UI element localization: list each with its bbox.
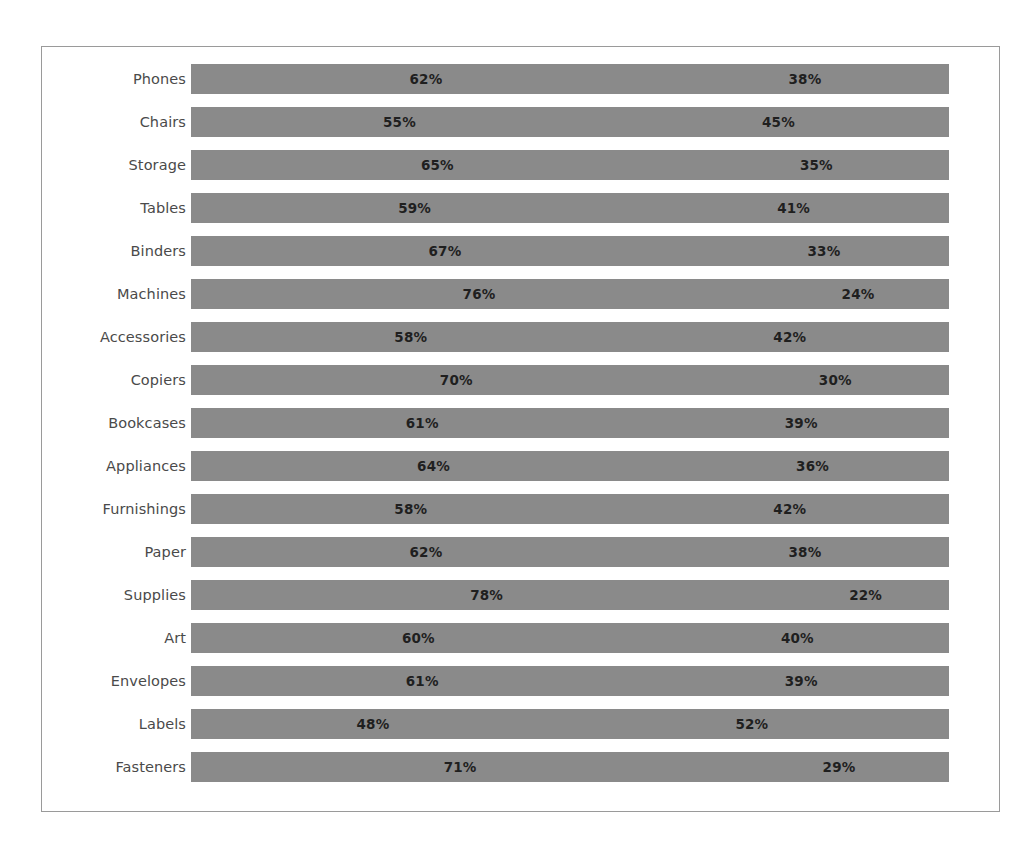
- bar-row: Art60%40%: [42, 617, 999, 660]
- category-label: Binders: [42, 230, 186, 273]
- stacked-bar: 61%39%: [191, 408, 949, 438]
- category-label: Supplies: [42, 574, 186, 617]
- bar-row: Binders67%33%: [42, 230, 999, 273]
- category-label: Phones: [42, 58, 186, 101]
- bar-segment-value: 58%: [394, 329, 427, 345]
- bar-segment[interactable]: 30%: [722, 365, 949, 395]
- bar-segment[interactable]: 65%: [191, 150, 684, 180]
- bar-segment[interactable]: 60%: [191, 623, 646, 653]
- category-label: Furnishings: [42, 488, 186, 531]
- bar-segment[interactable]: 64%: [191, 451, 676, 481]
- bar-segment-value: 59%: [398, 200, 431, 216]
- bar-segment-value: 24%: [842, 286, 875, 302]
- category-label: Machines: [42, 273, 186, 316]
- bar-row: Accessories58%42%: [42, 316, 999, 359]
- bar-segment[interactable]: 76%: [191, 279, 767, 309]
- bar-segment-value: 38%: [789, 544, 822, 560]
- bar-segment[interactable]: 67%: [191, 236, 699, 266]
- bar-segment[interactable]: 55%: [191, 107, 608, 137]
- stacked-bar: 55%45%: [191, 107, 949, 137]
- bar-segment[interactable]: 59%: [191, 193, 638, 223]
- bar-segment-value: 38%: [789, 71, 822, 87]
- bar-segment[interactable]: 22%: [782, 580, 949, 610]
- bar-segment[interactable]: 40%: [646, 623, 949, 653]
- bar-segment-value: 29%: [823, 759, 856, 775]
- bar-segment[interactable]: 58%: [191, 494, 631, 524]
- bar-segment[interactable]: 45%: [608, 107, 949, 137]
- bar-segment[interactable]: 61%: [191, 666, 653, 696]
- bar-segment[interactable]: 78%: [191, 580, 782, 610]
- bar-segment[interactable]: 70%: [191, 365, 722, 395]
- stacked-bar: 67%33%: [191, 236, 949, 266]
- bar-segment[interactable]: 39%: [653, 666, 949, 696]
- bar-row: Paper62%38%: [42, 531, 999, 574]
- bar-segment[interactable]: 62%: [191, 537, 661, 567]
- bar-segment-value: 58%: [394, 501, 427, 517]
- stacked-bar: 65%35%: [191, 150, 949, 180]
- bar-segment[interactable]: 48%: [191, 709, 555, 739]
- stacked-bar: 76%24%: [191, 279, 949, 309]
- bar-segment-value: 78%: [470, 587, 503, 603]
- bar-segment-value: 71%: [444, 759, 477, 775]
- bar-segment[interactable]: 61%: [191, 408, 653, 438]
- bar-segment-value: 62%: [410, 544, 443, 560]
- bar-segment-value: 62%: [410, 71, 443, 87]
- bar-segment[interactable]: 24%: [767, 279, 949, 309]
- stacked-bar: 64%36%: [191, 451, 949, 481]
- bar-segment-value: 67%: [428, 243, 461, 259]
- bar-segment-value: 64%: [417, 458, 450, 474]
- bar-row: Storage65%35%: [42, 144, 999, 187]
- stacked-bar: 58%42%: [191, 494, 949, 524]
- bar-segment[interactable]: 33%: [699, 236, 949, 266]
- bar-segment-value: 42%: [773, 501, 806, 517]
- category-label: Envelopes: [42, 660, 186, 703]
- bar-segment-value: 30%: [819, 372, 852, 388]
- stacked-bar: 58%42%: [191, 322, 949, 352]
- bar-segment[interactable]: 42%: [631, 494, 949, 524]
- bar-row: Fasteners71%29%: [42, 746, 999, 789]
- category-label: Labels: [42, 703, 186, 746]
- bar-segment[interactable]: 36%: [676, 451, 949, 481]
- bar-segment[interactable]: 41%: [638, 193, 949, 223]
- bar-segment-value: 42%: [773, 329, 806, 345]
- bar-segment[interactable]: 29%: [729, 752, 949, 782]
- bar-segment[interactable]: 35%: [684, 150, 949, 180]
- category-label: Appliances: [42, 445, 186, 488]
- bar-segment[interactable]: 52%: [555, 709, 949, 739]
- bar-segment-value: 45%: [762, 114, 795, 130]
- bar-row: Machines76%24%: [42, 273, 999, 316]
- bar-row: Supplies78%22%: [42, 574, 999, 617]
- bar-segment[interactable]: 62%: [191, 64, 661, 94]
- bar-segment-value: 36%: [796, 458, 829, 474]
- bar-segment-value: 76%: [463, 286, 496, 302]
- bar-segment-value: 55%: [383, 114, 416, 130]
- bar-row: Labels48%52%: [42, 703, 999, 746]
- stacked-bar: 71%29%: [191, 752, 949, 782]
- bar-segment-value: 33%: [807, 243, 840, 259]
- stacked-bar: 62%38%: [191, 537, 949, 567]
- bar-segment[interactable]: 58%: [191, 322, 631, 352]
- bar-segment-value: 60%: [402, 630, 435, 646]
- bar-segment[interactable]: 38%: [661, 64, 949, 94]
- bar-row: Bookcases61%39%: [42, 402, 999, 445]
- stacked-bar: 48%52%: [191, 709, 949, 739]
- bar-row: Envelopes61%39%: [42, 660, 999, 703]
- stacked-bar: 60%40%: [191, 623, 949, 653]
- bar-segment-value: 41%: [777, 200, 810, 216]
- chart-frame: Phones62%38%Chairs55%45%Storage65%35%Tab…: [41, 46, 1000, 812]
- bar-segment-value: 39%: [785, 415, 818, 431]
- category-label: Copiers: [42, 359, 186, 402]
- bar-segment[interactable]: 39%: [653, 408, 949, 438]
- bar-row: Furnishings58%42%: [42, 488, 999, 531]
- bar-segment-value: 61%: [406, 415, 439, 431]
- bar-segment-value: 52%: [735, 716, 768, 732]
- bar-segment[interactable]: 38%: [661, 537, 949, 567]
- bar-segment-value: 39%: [785, 673, 818, 689]
- stacked-bar: 61%39%: [191, 666, 949, 696]
- category-label: Storage: [42, 144, 186, 187]
- bar-segment[interactable]: 42%: [631, 322, 949, 352]
- bar-row: Tables59%41%: [42, 187, 999, 230]
- stacked-bar: 59%41%: [191, 193, 949, 223]
- bar-segment-value: 40%: [781, 630, 814, 646]
- bar-segment[interactable]: 71%: [191, 752, 729, 782]
